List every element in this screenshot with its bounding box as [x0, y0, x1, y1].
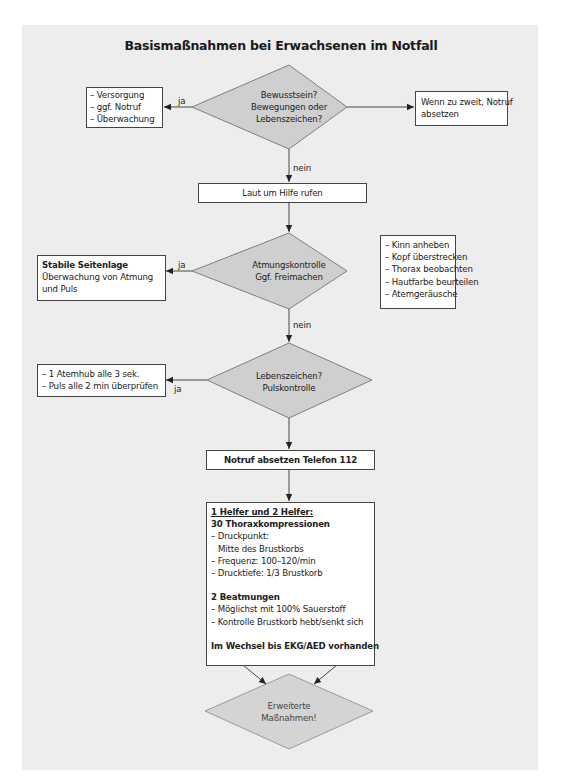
decision-1-line: Lebenszeichen? — [251, 113, 327, 125]
cpr-instructions-box: 1 Helfer und 2 Helfer: 30 Thoraxkompress… — [206, 502, 375, 666]
list-item: – Thorax beobachten — [385, 263, 451, 275]
step-call-for-help: Laut um Hilfe rufen — [198, 183, 367, 203]
compressions-title: 30 Thoraxkompressionen — [211, 518, 370, 530]
outcome-box-conscious: – Versorgung – ggf. Notruf – Überwachung — [86, 87, 163, 128]
list-item: Mitte des Brustkorbs — [211, 543, 370, 555]
edge-label-ja: ja — [178, 260, 185, 270]
list-item: – Frequenz: 100–120/min — [211, 555, 370, 567]
decision-final-label: Erweiterte Maßnahmen! — [261, 700, 316, 724]
edge-label-ja: ja — [174, 384, 181, 394]
outcome-box-ventilation: – 1 Atemhub alle 3 sek. – Puls alle 2 mi… — [37, 364, 166, 397]
decision-1-line: Bewegungen oder — [251, 101, 327, 113]
decision-final-line: Erweiterte — [261, 700, 316, 712]
outcome-line: und Puls — [42, 283, 161, 295]
edge-label-nein: nein — [293, 163, 311, 173]
outcome-box-recovery-position: Stabile Seitenlage Überwachung von Atmun… — [37, 255, 166, 301]
decision-2-line: Ggf. Freimachen — [252, 271, 325, 283]
list-item: – Druckpunkt: — [211, 530, 370, 542]
list-item: – Drucktiefe: 1/3 Brustkorb — [211, 567, 370, 579]
note-line: Wenn zu zweit, Notruf — [421, 96, 502, 108]
note-box-airway-checks: – Kinn anheben – Kopf überstrecken – Tho… — [380, 235, 456, 309]
list-item: – Kopf überstrecken — [385, 251, 451, 263]
edge-label-nein: nein — [293, 320, 311, 330]
cpr-heading: 1 Helfer und 2 Helfer: — [211, 506, 370, 518]
decision-1-line: Bewusstsein? — [251, 89, 327, 101]
decision-3-label: Lebenszeichen? Pulskontrolle — [256, 370, 322, 394]
list-item: – Hautfarbe beurteilen — [385, 276, 451, 288]
list-item: – Puls alle 2 min überprüfen — [42, 380, 161, 392]
step-emergency-call: Notruf absetzen Telefon 112 — [206, 450, 375, 470]
decision-3-line: Pulskontrolle — [256, 382, 322, 394]
list-item: – Überwachung — [90, 113, 159, 125]
edge-label-ja: ja — [178, 96, 185, 106]
decision-3-line: Lebenszeichen? — [256, 370, 322, 382]
spacer — [211, 628, 370, 640]
list-item: – 1 Atemhub alle 3 sek. — [42, 368, 161, 380]
list-item: – Möglichst mit 100% Sauerstoff — [211, 603, 370, 615]
list-item: – Versorgung — [90, 89, 159, 101]
decision-2-line: Atmungskontrolle — [252, 259, 325, 271]
ventilation-title: 2 Beatmungen — [211, 591, 370, 603]
note-line: absetzen — [421, 108, 502, 120]
outcome-line: Überwachung von Atmung — [42, 271, 161, 283]
note-box-two-helpers: Wenn zu zweit, Notruf absetzen — [415, 91, 508, 126]
list-item: – Kontrolle Brustkorb hebt/senkt sich — [211, 616, 370, 628]
list-item: – Atemgeräusche — [385, 288, 451, 300]
list-item: – Kinn anheben — [385, 239, 451, 251]
list-item: – ggf. Notruf — [90, 101, 159, 113]
cpr-footer: Im Wechsel bis EKG/AED vorhanden — [211, 640, 370, 652]
decision-1-label: Bewusstsein? Bewegungen oder Lebenszeich… — [251, 89, 327, 125]
decision-2-label: Atmungskontrolle Ggf. Freimachen — [252, 259, 325, 283]
decision-final-line: Maßnahmen! — [261, 712, 316, 724]
outcome-heading: Stabile Seitenlage — [42, 259, 161, 271]
spacer — [211, 579, 370, 591]
